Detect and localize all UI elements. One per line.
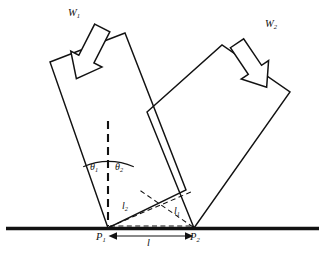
label-span-l: l bbox=[147, 238, 150, 249]
label-weight-2: W2 bbox=[265, 19, 277, 30]
mechanics-diagram: W1 W2 θ1 θ2 l2 l1 P1 P2 l bbox=[0, 0, 325, 254]
block-left bbox=[50, 33, 186, 228]
label-length-2: l2 bbox=[122, 201, 128, 211]
label-theta-2: θ2 bbox=[115, 162, 123, 172]
span-dimension bbox=[109, 232, 194, 239]
weight-arrow-2 bbox=[223, 34, 280, 96]
label-weight-1: W1 bbox=[68, 8, 80, 19]
block-right bbox=[147, 45, 290, 228]
label-theta-1: θ1 bbox=[90, 162, 98, 172]
weight-arrow-1 bbox=[61, 20, 118, 87]
label-length-1: l1 bbox=[174, 206, 180, 216]
label-point-1: P1 bbox=[96, 232, 106, 243]
diagram-canvas bbox=[0, 0, 325, 254]
label-point-2: P2 bbox=[190, 232, 200, 243]
dashed-line-l1 bbox=[138, 189, 193, 227]
